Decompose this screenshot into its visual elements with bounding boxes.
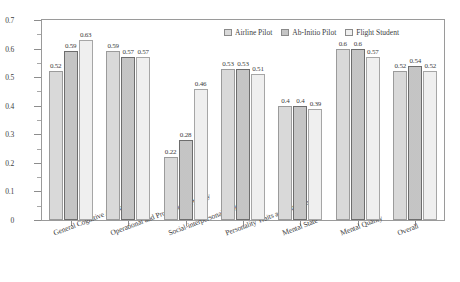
y-tick-label: 0.4 (0, 101, 14, 110)
bars-container: 0.520.590.630.590.570.570.220.280.460.53… (42, 20, 444, 220)
bar-0[interactable] (164, 157, 178, 220)
bar-value-label: 0.39 (303, 100, 327, 108)
y-tick-label: 0.7 (0, 16, 14, 25)
y-tick-label: 0 (0, 216, 14, 225)
bar-1[interactable] (121, 57, 135, 220)
bar-1[interactable] (408, 66, 422, 220)
legend-swatch-icon (345, 29, 353, 36)
y-tick-mark (34, 49, 41, 50)
bar-2[interactable] (79, 40, 93, 220)
y-tick-mark (34, 20, 41, 21)
bar-value-label: 0.57 (131, 48, 155, 56)
legend-label: Airline Pilot (235, 28, 272, 37)
y-tick-label: 0.2 (0, 158, 14, 167)
legend-swatch-icon (224, 29, 232, 36)
legend-item[interactable]: Flight Student (345, 28, 399, 37)
y-tick-label: 0.1 (0, 187, 14, 196)
legend-item[interactable]: Airline Pilot (224, 28, 272, 37)
y-minor-tick-mark (37, 63, 41, 64)
bar-2[interactable] (423, 71, 437, 220)
bar-2[interactable] (251, 74, 265, 220)
y-minor-tick-mark (37, 91, 41, 92)
chart-legend: Airline PilotAb-Initio PilotFlight Stude… (224, 28, 399, 37)
bar-group: 0.520.540.52 (393, 20, 437, 220)
bar-1[interactable] (179, 140, 193, 220)
bar-0[interactable] (49, 71, 63, 220)
bar-group: 0.530.530.51 (221, 20, 265, 220)
y-tick-mark (34, 163, 41, 164)
y-minor-tick-mark (37, 34, 41, 35)
bar-value-label: 0.63 (74, 31, 98, 39)
y-minor-tick-mark (37, 206, 41, 207)
bar-value-label: 0.57 (361, 48, 385, 56)
legend-label: Ab-Initio Pilot (292, 28, 336, 37)
bar-1[interactable] (293, 106, 307, 220)
y-minor-tick-mark (37, 120, 41, 121)
y-tick-label: 0.6 (0, 44, 14, 53)
bar-group: 0.60.60.57 (336, 20, 380, 220)
y-tick-mark (34, 106, 41, 107)
bar-group: 0.220.280.46 (164, 20, 208, 220)
bar-0[interactable] (221, 69, 235, 220)
bar-value-label: 0.6 (346, 40, 370, 48)
bar-0[interactable] (106, 51, 120, 220)
bar-2[interactable] (308, 109, 322, 220)
bar-chart-figure: 00.10.20.30.40.50.60.7 General Cognitive… (0, 0, 460, 282)
legend-item[interactable]: Ab-Initio Pilot (281, 28, 336, 37)
bar-value-label: 0.46 (189, 80, 213, 88)
bar-0[interactable] (336, 49, 350, 220)
bar-1[interactable] (64, 51, 78, 220)
y-tick-label: 0.5 (0, 73, 14, 82)
y-minor-tick-mark (37, 177, 41, 178)
y-tick-mark (34, 191, 41, 192)
y-tick-mark (34, 77, 41, 78)
y-tick-label: 0.3 (0, 130, 14, 139)
y-tick-mark (34, 220, 41, 221)
y-tick-mark (34, 134, 41, 135)
bar-group: 0.590.570.57 (106, 20, 150, 220)
bar-2[interactable] (194, 89, 208, 220)
bar-2[interactable] (136, 57, 150, 220)
bar-1[interactable] (236, 69, 250, 220)
legend-swatch-icon (281, 29, 289, 36)
bar-group: 0.40.40.39 (278, 20, 322, 220)
bar-1[interactable] (351, 49, 365, 220)
y-minor-tick-mark (37, 149, 41, 150)
bar-0[interactable] (393, 71, 407, 220)
bar-2[interactable] (366, 57, 380, 220)
x-axis-label: Overall (396, 221, 420, 237)
bar-group: 0.520.590.63 (49, 20, 93, 220)
legend-label: Flight Student (356, 28, 399, 37)
bar-0[interactable] (278, 106, 292, 220)
bar-value-label: 0.52 (418, 62, 442, 70)
bar-value-label: 0.51 (246, 65, 270, 73)
